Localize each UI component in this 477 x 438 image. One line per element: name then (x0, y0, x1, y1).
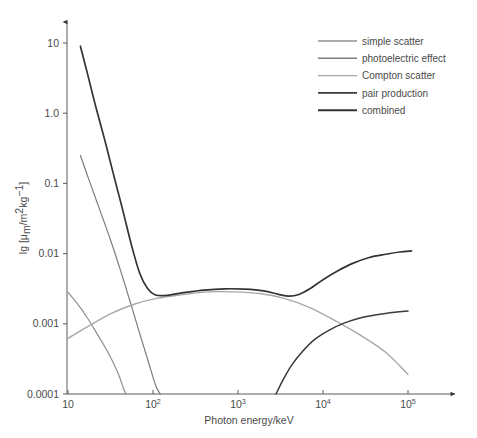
curve-compton-scatter (68, 292, 408, 375)
legend-label-simple-scatter: simple scatter (362, 36, 424, 47)
chart-plot: 101.00.10.010.0010.0001 10102103104105 s… (0, 0, 477, 438)
curve-simple-scatter (68, 292, 126, 394)
x-axis: 10102103104105 (62, 390, 455, 410)
x-tick-label: 102 (145, 397, 161, 410)
x-tick-label: 103 (230, 397, 246, 410)
y-axis-title: lg [μm/m2kg−1] (13, 182, 32, 254)
y-tick-label: 0.0001 (27, 388, 59, 400)
y-tick-label: 0.1 (44, 177, 59, 189)
legend-label-compton-scatter: Compton scatter (362, 70, 436, 81)
legend-label-combined: combined (362, 105, 405, 116)
legend-label-photoelectric-effect: photoelectric effect (362, 53, 446, 64)
x-tick-label: 105 (400, 397, 416, 410)
y-tick-label: 0.001 (33, 317, 59, 329)
chart-legend: simple scatterphotoelectric effectCompto… (318, 36, 446, 116)
figure-container: 101.00.10.010.0010.0001 10102103104105 s… (0, 0, 477, 438)
curve-pair-production (276, 311, 408, 394)
x-axis-title: Photon energy/keV (204, 414, 293, 426)
curve-photoelectric-effect (80, 155, 160, 394)
y-axis: 101.00.10.010.0010.0001 (27, 22, 67, 400)
y-tick-label: 1.0 (44, 107, 59, 119)
curve-series-group (68, 46, 412, 394)
x-tick-label: 10 (62, 398, 74, 410)
legend-label-pair-production: pair production (362, 88, 428, 99)
curve-combined (80, 46, 411, 296)
y-tick-label: 10 (47, 37, 59, 49)
x-tick-label: 104 (315, 397, 331, 410)
caption-strip (0, 426, 477, 438)
y-tick-label: 0.01 (39, 247, 60, 259)
